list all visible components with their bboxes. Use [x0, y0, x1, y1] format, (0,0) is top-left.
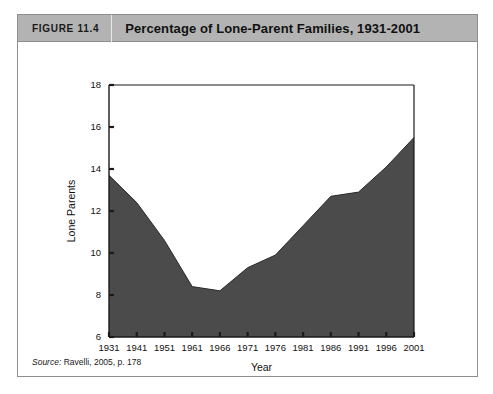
y-axis-tick-label: 18	[90, 79, 101, 90]
figure-number-label: FIGURE 11.4	[18, 23, 111, 34]
x-axis-tick-label: 1966	[209, 342, 230, 353]
y-axis-tick-label: 6	[96, 331, 101, 342]
figure-title: Percentage of Lone-Parent Families, 1931…	[112, 21, 420, 36]
y-axis-tick-label: 14	[90, 163, 101, 174]
x-axis-tick-label: 1931	[98, 342, 119, 353]
x-axis-tick-label: 1986	[320, 342, 341, 353]
x-axis-tick-label: 1951	[154, 342, 175, 353]
x-axis-tick-label: 1976	[265, 342, 286, 353]
source-label: Source:	[32, 357, 61, 367]
x-axis-tick-label: 1996	[376, 342, 397, 353]
figure-header: FIGURE 11.4 Percentage of Lone-Parent Fa…	[18, 15, 477, 42]
y-axis-tick-label: 8	[96, 289, 101, 300]
x-axis-tick-label: 2001	[403, 342, 424, 353]
figure-box: FIGURE 11.4 Percentage of Lone-Parent Fa…	[17, 14, 478, 377]
x-axis-tick-label: 1971	[237, 342, 258, 353]
area-chart: 6810121416181931194119511961196619711976…	[18, 42, 479, 377]
y-axis-tick-label: 12	[90, 205, 101, 216]
x-axis-tick-label: 1991	[348, 342, 369, 353]
y-axis-title: Lone Parents	[65, 180, 77, 242]
y-axis-tick-label: 10	[90, 247, 101, 258]
source-text: Ravelli, 2005, p. 178	[64, 357, 142, 367]
x-axis-tick-label: 1961	[182, 342, 203, 353]
area-series-lone-parents	[109, 138, 414, 338]
y-axis-tick-label: 16	[90, 121, 101, 132]
chart-plot-container: 6810121416181931194119511961196619711976…	[18, 42, 477, 376]
x-axis-tick-label: 1941	[126, 342, 147, 353]
x-axis-tick-label: 1981	[293, 342, 314, 353]
x-axis-title: Year	[251, 361, 273, 373]
source-note: Source: Ravelli, 2005, p. 178	[32, 357, 141, 367]
